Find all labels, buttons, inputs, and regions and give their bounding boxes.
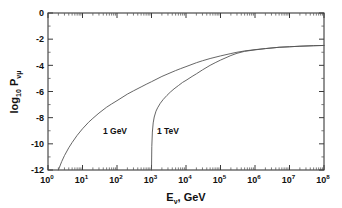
curve-annotation-1-gev: 1 GeV [103,126,127,136]
log-log-plot: 100101102103104105106107108 0-2-4-6-8-10… [0,0,342,208]
y-tick-label: -12 [31,165,44,175]
y-tick-label: -2 [36,34,44,44]
y-tick-label: 0 [39,8,44,18]
y-axis-title-symbol-sub: νμ [15,71,23,79]
x-axis-title-rest: , GeV [178,191,207,203]
y-tick-label: -6 [36,87,44,97]
figure-container: 100101102103104105106107108 0-2-4-6-8-10… [0,0,342,208]
x-tick-labels: 100101102103104105106107108 [40,173,330,185]
y-axis-title-symbol: P [8,79,20,86]
y-tick-label: -8 [36,113,44,123]
x-axis-title-main: E [166,191,173,203]
y-tick-label: -4 [36,61,44,71]
svg-text:Eν, GeV: Eν, GeV [166,191,206,205]
y-axis-title-main-sub: 10 [15,89,22,97]
x-axis-title: Eν, GeV [166,191,206,205]
y-axis-title-main: log [8,97,20,114]
y-tick-label: -10 [31,139,44,149]
curve-annotation-1-tev: 1 TeV [157,126,179,136]
